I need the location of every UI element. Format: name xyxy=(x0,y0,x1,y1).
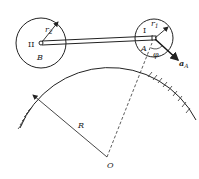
connecting-rod xyxy=(39,36,156,45)
label-acceleration: aA xyxy=(179,58,189,69)
label-gear-I: I xyxy=(143,26,146,35)
phi-angle-arc xyxy=(151,46,162,49)
label-center-O: O xyxy=(107,161,114,170)
dashed-line-OA xyxy=(107,43,152,157)
label-r2: r2 xyxy=(45,25,53,35)
label-gear-II: II xyxy=(28,40,34,49)
radius-line-R xyxy=(33,95,107,157)
fixed-arc-surface xyxy=(18,68,196,129)
label-point-A: A xyxy=(140,44,147,53)
label-phi: φ xyxy=(153,50,159,59)
hatch-right xyxy=(148,72,190,113)
hatch-left xyxy=(18,107,32,129)
mechanism-diagram: II I r2 r1 B A φ aA R O xyxy=(0,0,199,179)
label-radius-R: R xyxy=(77,121,84,130)
label-r1: r1 xyxy=(151,19,159,29)
label-point-B: B xyxy=(36,53,43,62)
